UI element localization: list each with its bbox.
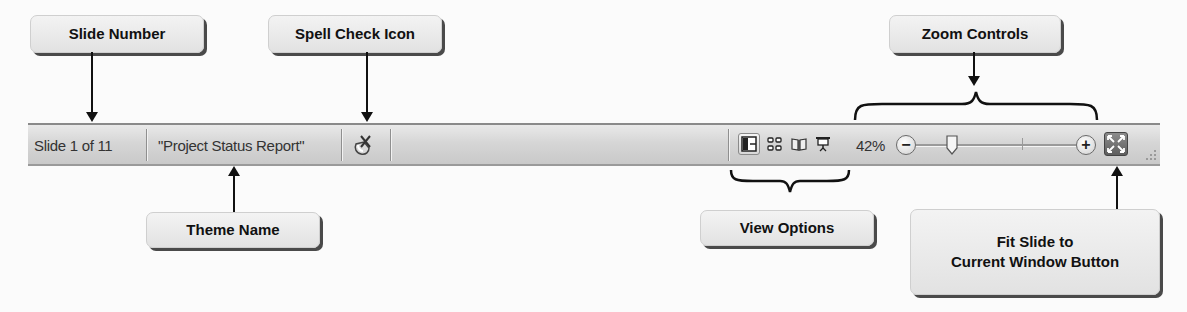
callout-spell-check: Spell Check Icon (268, 15, 442, 53)
slide-show-view-button[interactable] (812, 133, 834, 155)
view-options-brace (728, 168, 854, 196)
callout-zoom-controls: Zoom Controls (889, 15, 1061, 53)
zoom-controls-brace (852, 90, 1102, 122)
divider (146, 129, 148, 161)
slide-sorter-view-button[interactable] (764, 133, 786, 155)
resize-grip[interactable] (1145, 149, 1157, 161)
divider (341, 129, 343, 161)
arrow-zoom-controls (973, 52, 975, 78)
reading-view-icon (791, 136, 807, 152)
zoom-slider-track[interactable] (916, 144, 1076, 147)
callout-fit-slide-line2: Current Window Button (951, 252, 1119, 272)
spell-check-icon[interactable] (350, 132, 376, 158)
slide-sorter-icon (767, 136, 783, 152)
callout-slide-number: Slide Number (30, 15, 204, 53)
zoom-level[interactable]: 42% (856, 137, 885, 154)
fit-to-window-icon (1105, 133, 1127, 155)
normal-view-button[interactable] (738, 133, 760, 155)
reading-view-button[interactable] (788, 133, 810, 155)
zoom-slider-thumb[interactable] (946, 135, 958, 155)
slide-indicator[interactable]: Slide 1 of 11 (34, 137, 112, 154)
callout-fit-slide-line1: Fit Slide to (997, 232, 1074, 252)
status-bar: Slide 1 of 11 "Project Status Report" (28, 123, 1160, 166)
arrow-head-slide-number (86, 112, 98, 122)
arrow-spell-check (366, 52, 368, 114)
fit-slide-to-window-button[interactable] (1104, 132, 1128, 156)
arrow-head-spell-check (361, 112, 373, 122)
plus-icon: + (1081, 137, 1090, 153)
callout-theme-name: Theme Name (146, 212, 320, 248)
arrow-slide-number (91, 52, 93, 114)
arrow-fit-slide (1116, 175, 1118, 209)
divider (728, 129, 730, 161)
normal-view-icon (741, 136, 757, 152)
arrow-theme-name (233, 175, 235, 212)
callout-fit-slide: Fit Slide to Current Window Button (910, 209, 1160, 295)
divider (390, 129, 392, 161)
zoom-slider-midpoint (1022, 138, 1023, 150)
callout-view-options: View Options (700, 210, 874, 246)
zoom-out-button[interactable]: − (896, 135, 916, 155)
minus-icon: − (901, 137, 910, 153)
zoom-in-button[interactable]: + (1076, 135, 1096, 155)
slide-show-icon (815, 136, 831, 152)
theme-name[interactable]: "Project Status Report" (158, 137, 304, 154)
arrow-head-zoom-controls (968, 76, 980, 86)
